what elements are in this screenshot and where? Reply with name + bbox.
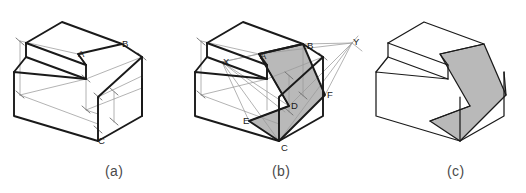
panel-c-solid [376,22,506,141]
caption-c: (c) [447,163,465,179]
technical-drawing-figure: A B C [0,0,526,193]
caption-a: (a) [105,163,123,179]
caption-b: (b) [272,163,290,179]
